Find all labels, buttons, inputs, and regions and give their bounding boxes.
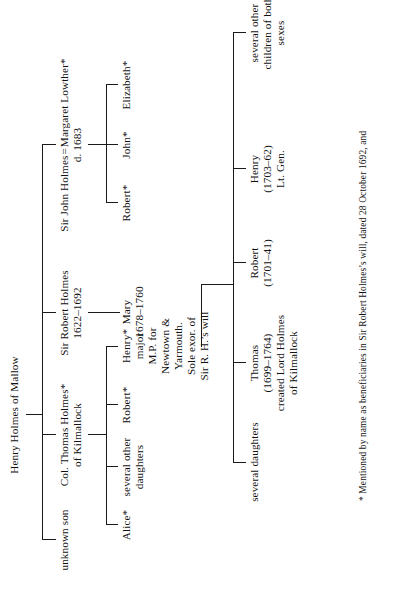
connector-sir-john-stem [88, 144, 106, 145]
col-thomas-detail: of Kilmallock [71, 375, 84, 495]
connector-drop-sir-robert [42, 312, 56, 313]
henry-3-line-5: Sir R. H.’s will [198, 307, 211, 385]
thomas-4-line-0: created Lord Holmes [274, 297, 287, 429]
node-elizabeth-daughter-of-sir-john: Elizabeth* [120, 47, 133, 123]
node-col-thomas-holmes: Col. Thomas Holmes* of Kilmallock [58, 375, 84, 495]
sir-john-name: Sir John Holmes [58, 156, 70, 232]
elizabeth-john-child-name: Elizabeth* [120, 47, 133, 123]
node-several-other-children: several other children of both sexes [248, 0, 287, 105]
connector-drop-several-other-daughters [106, 466, 118, 467]
connector-drop-unknown-son [42, 539, 56, 540]
connector-drop-john-john-child [106, 144, 118, 145]
connector-drop-robert-4 [233, 262, 246, 263]
robert-john-child-name: Robert* [120, 169, 133, 237]
sir-robert-name: Sir Robert Holmes [58, 253, 71, 373]
connector-drop-alice [106, 524, 118, 525]
several-other-children-line-0: children of both [261, 0, 274, 105]
margaret-lowther-name: Margaret Lowther* [58, 58, 70, 147]
sir-john-dates: d. 1683 [71, 45, 84, 245]
thomas-4-line-1: of Kilmallock [287, 297, 300, 429]
connector-drop-elizabeth-john-child [106, 84, 118, 85]
node-robert-fourth-generation: Robert (1701–41) [248, 219, 274, 307]
sir-john-marriage-line: Sir John Holmes=Margaret Lowther* [58, 45, 71, 245]
connector-drop-thomas-4 [233, 362, 246, 363]
footnote: * Mentioned by name as beneficiaries in … [358, 131, 369, 501]
robert-4-name: Robert [248, 219, 261, 307]
henry-3-line-2: Newtown & [159, 307, 172, 385]
connector-gen4-stem [201, 284, 233, 285]
node-henry-lt-gen: Henry (1703–62) Lt. Gen. [248, 125, 287, 213]
thomas-4-dates: (1699–1764) [261, 297, 274, 429]
thomas-4-name: Thomas [248, 297, 261, 429]
connector-drop-henry-4 [233, 168, 246, 169]
node-john-son-of-sir-john: John* [120, 115, 133, 175]
connector-drop-several-daughters [233, 462, 246, 463]
marriage-equals-sign: = [58, 147, 70, 155]
family-tree-plate: Henry Holmes of Mallow unknown son Col. … [0, 0, 393, 613]
connector-root-stem [26, 414, 42, 415]
connector-drop-col-thomas [42, 434, 56, 435]
several-other-daughters-detail: daughters [133, 425, 146, 509]
col-thomas-name: Col. Thomas Holmes* [58, 375, 71, 495]
henry-4-name: Henry [248, 125, 261, 213]
sir-robert-dates: 1622–1692 [71, 253, 84, 373]
connector-henry-mary-union [201, 285, 202, 347]
several-other-children-line-1: sexes [274, 0, 287, 105]
connector-drop-robert-john-child [106, 202, 118, 203]
john-john-child-name: John* [120, 115, 133, 175]
henry-3-line-1: M.P. for [146, 307, 159, 385]
footnote-text: Mentioned by name as beneficiaries in Si… [358, 131, 368, 494]
node-unknown-son: unknown son [58, 490, 71, 590]
henry-4-dates: (1703–62) [261, 125, 274, 213]
robert-4-dates: (1701–41) [261, 219, 274, 307]
node-sir-john-holmes-marriage: Sir John Holmes=Margaret Lowther* d. 168… [58, 45, 84, 245]
connector-gen2-bar [42, 145, 43, 540]
mary-name: Mary [120, 269, 133, 355]
node-mary: Mary 1678–1760 [120, 269, 146, 355]
node-robert-son-of-sir-john: Robert* [120, 169, 133, 237]
node-thomas-lord-holmes: Thomas (1699–1764) created Lord Holmes o… [248, 297, 300, 429]
several-other-children-name: several other [248, 0, 261, 105]
connector-drop-robert-3 [106, 404, 118, 405]
mary-dates: 1678–1760 [133, 269, 146, 355]
root-name: Henry Holmes of Mallow [8, 335, 21, 495]
connector-sir-robert-stem [88, 312, 120, 313]
connector-thomas-stem [88, 434, 106, 435]
node-henry-holmes-of-mallow: Henry Holmes of Mallow [8, 335, 21, 495]
footnote-marker: * [358, 496, 368, 501]
node-sir-robert-holmes: Sir Robert Holmes 1622–1692 [58, 253, 84, 373]
henry-3-line-4: Sole exor. of [185, 307, 198, 385]
connector-gen4-bar [233, 33, 234, 463]
henry-3-line-3: Yarmouth. [172, 307, 185, 385]
unknown-son-name: unknown son [58, 490, 71, 590]
connector-drop-several-other-children [233, 32, 246, 33]
connector-drop-henry-3 [106, 346, 118, 347]
henry-4-line-0: Lt. Gen. [274, 125, 287, 213]
connector-thomas-children-bar [106, 347, 107, 525]
connector-drop-sir-john [42, 144, 56, 145]
